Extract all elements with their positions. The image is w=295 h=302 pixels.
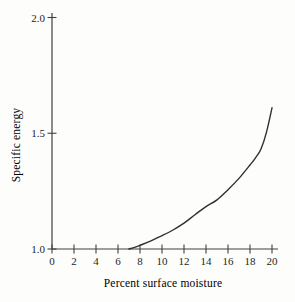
x-tick-label: 2: [71, 255, 77, 267]
specific-energy-vs-moisture-curve: [129, 108, 272, 249]
y-axis-title: Specific energy: [10, 108, 22, 183]
x-tick-label: 20: [267, 255, 279, 267]
x-tick-label: 10: [157, 255, 169, 267]
x-tick-label: 8: [137, 255, 143, 267]
x-tick-label: 16: [223, 255, 235, 267]
x-tick-label: 4: [93, 255, 99, 267]
x-tick-label: 18: [245, 255, 257, 267]
x-tick-label: 0: [49, 255, 55, 267]
y-tick-label: 1.0: [31, 243, 45, 255]
chart-figure: 024681012141618201.01.52.0 Percent surfa…: [0, 0, 295, 302]
x-tick-label: 6: [115, 255, 121, 267]
x-axis-title: Percent surface moisture: [52, 277, 274, 289]
chart-canvas: 024681012141618201.01.52.0: [0, 0, 295, 302]
y-tick-label: 1.5: [31, 127, 45, 139]
y-tick-label: 2.0: [31, 12, 45, 24]
x-tick-label: 14: [201, 255, 213, 267]
x-tick-label: 12: [179, 255, 190, 267]
